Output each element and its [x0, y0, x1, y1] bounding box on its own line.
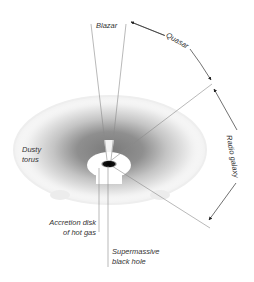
- radio-galaxy-arrow-bottom: [209, 183, 236, 220]
- accretion-disk-label-line1: Accretion disk: [36, 218, 96, 228]
- accretion-disk-label-line2: of hot gas: [36, 228, 96, 238]
- smbh-label-line2: black hole: [112, 257, 160, 267]
- dusty-torus-label: Dusty torus: [22, 145, 41, 164]
- dusty-torus-label-line1: Dusty: [22, 145, 41, 155]
- black-hole: [101, 160, 117, 168]
- radio-galaxy-arrow-top: [214, 89, 237, 130]
- supermassive-black-hole-label: Supermassive black hole: [112, 247, 160, 266]
- dusty-torus-label-line2: torus: [22, 155, 41, 165]
- blazar-label: Blazar: [96, 21, 117, 31]
- agn-diagram: [0, 0, 254, 282]
- dusty-torus: [14, 96, 206, 204]
- smbh-label-line1: Supermassive: [112, 247, 160, 257]
- accretion-disk-label: Accretion disk of hot gas: [36, 218, 96, 237]
